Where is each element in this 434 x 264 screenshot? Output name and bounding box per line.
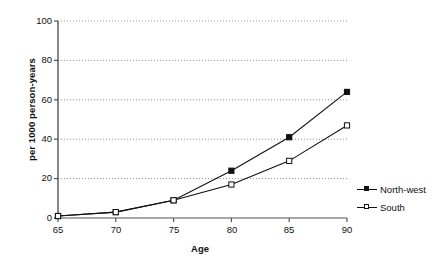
legend-item-north-west[interactable]: North-west (357, 180, 426, 198)
legend-label: North-west (380, 184, 426, 195)
data-point-marker (229, 182, 234, 187)
data-point-marker (344, 89, 349, 94)
axis-lines (58, 21, 347, 218)
legend-item-south[interactable]: South (357, 198, 426, 216)
axis-ticks (54, 21, 347, 222)
data-series (55, 123, 349, 219)
legend-label: South (380, 202, 405, 213)
chart-legend: North-west South (357, 180, 426, 216)
grid-lines (58, 21, 348, 179)
data-point-marker (344, 123, 349, 128)
data-point-marker (113, 209, 118, 214)
data-series (55, 89, 349, 218)
open-square-marker-icon (357, 202, 377, 212)
plot-area (0, 0, 434, 264)
data-point-marker (287, 158, 292, 163)
data-point-marker (171, 198, 176, 203)
filled-square-marker-icon (357, 184, 377, 194)
chart-figure: per 1000 person-years 100 80 60 40 20 0 … (0, 0, 434, 264)
data-point-marker (229, 168, 234, 173)
data-series-layer (55, 89, 349, 218)
data-point-marker (55, 213, 60, 218)
data-point-marker (287, 135, 292, 140)
